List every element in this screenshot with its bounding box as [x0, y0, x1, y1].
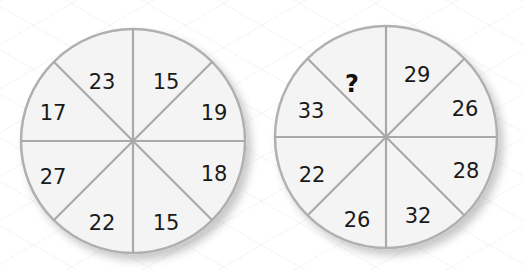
left-segment-6: 22 [89, 211, 116, 235]
right-segment-7: 22 [299, 163, 326, 187]
left-wheel: 23 15 19 18 15 22 27 17 [20, 28, 246, 254]
right-wheel-graphic: ? 29 26 28 32 26 22 33 [274, 25, 498, 249]
right-wheel-dividers [275, 26, 497, 248]
right-wheel: ? 29 26 28 32 26 22 33 [274, 25, 498, 249]
left-segment-3: 19 [201, 101, 228, 125]
right-segment-6: 26 [344, 208, 371, 232]
left-segment-4: 18 [201, 162, 228, 186]
right-segment-8: 33 [298, 99, 325, 123]
right-segment-3: 26 [452, 97, 479, 121]
left-wheel-graphic: 23 15 19 18 15 22 27 17 [20, 28, 246, 254]
left-segment-8: 17 [40, 101, 67, 125]
right-segment-5: 32 [405, 204, 432, 228]
left-segment-1: 23 [89, 70, 116, 94]
left-segment-2: 15 [153, 70, 180, 94]
left-segment-5: 15 [153, 211, 180, 235]
left-segment-7: 27 [40, 165, 67, 189]
right-segment-4: 28 [453, 159, 480, 183]
left-wheel-dividers [21, 29, 245, 253]
right-segment-1-unknown: ? [345, 70, 359, 98]
right-segment-2: 29 [404, 63, 431, 87]
